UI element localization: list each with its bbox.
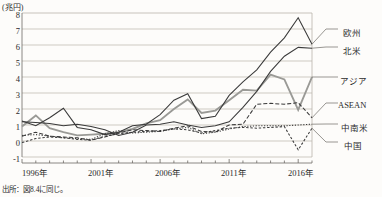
legend-leader-中国 — [312, 128, 338, 142]
series-line-北米 — [22, 47, 312, 135]
figure-container: (兆円) 8 7 6 5 4 3 2 1 0 -1 1996年 2001年 20… — [0, 0, 382, 197]
chart-plot-area — [0, 0, 382, 197]
legend-leader-北米 — [312, 47, 338, 48]
series-line-アジア — [22, 75, 312, 136]
series-line-ASEAN — [22, 103, 312, 141]
legend-leader-欧州 — [312, 29, 338, 44]
legend-leader-ASEAN — [312, 103, 338, 118]
